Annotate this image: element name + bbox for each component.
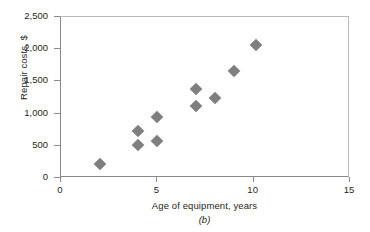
figure-caption: (b) bbox=[60, 214, 349, 225]
data-point bbox=[209, 92, 222, 105]
data-point bbox=[151, 135, 164, 148]
data-point bbox=[132, 125, 145, 138]
x-tick-label: 15 bbox=[334, 185, 364, 195]
data-point bbox=[249, 39, 262, 52]
x-tick-label: 5 bbox=[141, 185, 171, 195]
y-tick-label: 1,000 bbox=[6, 108, 48, 118]
scatter-plot-figure: Repair costs, $ 05001,0001,5002,0002,500… bbox=[0, 0, 370, 232]
data-point bbox=[93, 158, 106, 171]
x-tick-mark bbox=[156, 177, 157, 182]
data-point bbox=[189, 99, 202, 112]
data-point bbox=[228, 65, 241, 78]
x-axis-title: Age of equipment, years bbox=[60, 200, 349, 211]
y-tick-label: 2,500 bbox=[6, 11, 48, 21]
data-point bbox=[151, 111, 164, 124]
y-tick-label: 0 bbox=[6, 172, 48, 182]
y-tick-label: 2,000 bbox=[6, 43, 48, 53]
data-point bbox=[132, 139, 145, 152]
x-tick-label: 0 bbox=[45, 185, 75, 195]
x-tick-label: 10 bbox=[238, 185, 268, 195]
plot-area bbox=[60, 16, 349, 177]
x-tick-mark bbox=[253, 177, 254, 182]
data-points-layer bbox=[61, 17, 348, 176]
data-point bbox=[189, 82, 202, 95]
x-tick-mark bbox=[60, 177, 61, 182]
y-tick-label: 500 bbox=[6, 140, 48, 150]
y-tick-label: 1,500 bbox=[6, 75, 48, 85]
x-tick-mark bbox=[349, 177, 350, 182]
